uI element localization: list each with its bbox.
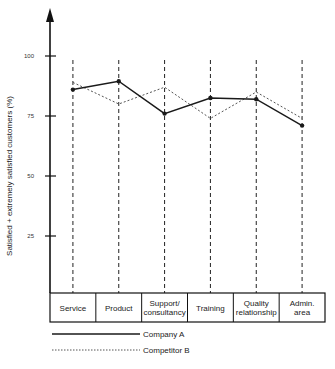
y-axis: 255075100 xyxy=(24,8,56,293)
legend-label: Competitor B xyxy=(143,346,190,355)
category-label: relationship xyxy=(236,308,277,317)
y-tick-label: 50 xyxy=(27,173,34,179)
line-chart: 255075100 Satisfied + extremely satisfie… xyxy=(0,0,335,369)
series-line-company-a xyxy=(73,81,302,125)
category-label: Product xyxy=(105,304,133,313)
y-axis-label: Satisfied + extremely satisfied customer… xyxy=(5,96,14,256)
legend: Company ACompetitor B xyxy=(52,330,190,355)
arrow-up-icon xyxy=(46,8,54,22)
data-point xyxy=(162,111,166,115)
data-series xyxy=(71,79,305,128)
data-point xyxy=(254,97,258,101)
data-point xyxy=(71,87,75,91)
category-label: Support/ xyxy=(149,299,180,308)
category-label: consultancy xyxy=(143,308,185,317)
category-label: area xyxy=(294,308,311,317)
category-label: Training xyxy=(196,304,225,313)
category-label: Admin. xyxy=(290,299,315,308)
category-guides xyxy=(73,60,302,293)
y-tick-label: 100 xyxy=(24,53,35,59)
data-point xyxy=(300,123,304,127)
y-tick-label: 75 xyxy=(27,113,34,119)
category-label: Service xyxy=(60,304,87,313)
category-axis-box: ServiceProductSupport/consultancyTrainin… xyxy=(50,293,325,322)
legend-label: Company A xyxy=(143,330,185,339)
data-point xyxy=(208,96,212,100)
category-label: Quality xyxy=(244,299,269,308)
series-line-competitor-b xyxy=(73,82,302,118)
data-point xyxy=(117,79,121,83)
y-tick-label: 25 xyxy=(27,233,34,239)
